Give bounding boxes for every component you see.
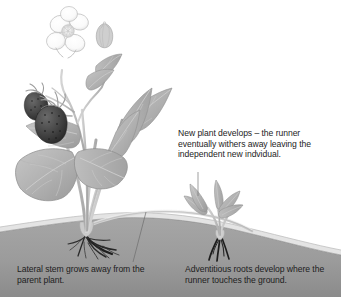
callout-adventitious-roots: Adventitious roots develop where the run… [185, 264, 340, 285]
leaf-lower-left-large [16, 149, 78, 201]
leaf-mid-left-small [86, 69, 114, 90]
diagram-canvas: New plant develops – the runner eventual… [0, 0, 341, 297]
leaf-upper-right [106, 88, 172, 159]
strawberry-fruits [24, 83, 67, 143]
flower-bud [96, 22, 112, 48]
leaf-lower-middle [74, 149, 127, 189]
strawberry-flower [45, 7, 90, 59]
callout-new-plant-develops: New plant develops – the runner eventual… [178, 128, 338, 160]
callout-lateral-stem: Lateral stem grows away from the parent … [17, 264, 167, 285]
